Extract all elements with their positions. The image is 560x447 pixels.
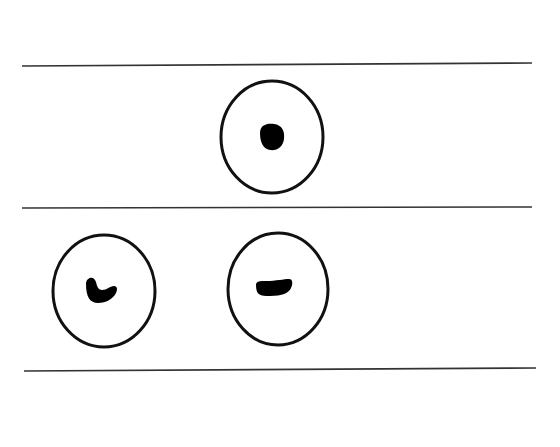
diagram-svg bbox=[0, 0, 560, 447]
horizontal-line-2 bbox=[22, 207, 532, 208]
staff-lines bbox=[22, 63, 536, 371]
diagram-canvas bbox=[0, 0, 560, 447]
circle-cell-dash bbox=[228, 233, 328, 345]
dot-mark-icon bbox=[260, 124, 284, 150]
hook-mark-icon bbox=[86, 278, 117, 303]
circle-cells bbox=[53, 81, 328, 347]
horizontal-line-1 bbox=[22, 63, 532, 66]
dash-mark-icon bbox=[256, 279, 292, 296]
circle-cell-hook bbox=[53, 235, 155, 347]
horizontal-line-3 bbox=[24, 368, 536, 371]
circle-cell-dot bbox=[221, 81, 323, 193]
